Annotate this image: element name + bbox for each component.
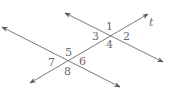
transversal-t	[30, 14, 148, 83]
angle-label-3: 3	[92, 30, 99, 43]
diagram-canvas: 12345678 t	[0, 0, 181, 100]
angle-label-6: 6	[79, 55, 86, 68]
angle-label-7: 7	[48, 56, 55, 69]
angle-label-8: 8	[64, 65, 71, 78]
angle-label-5: 5	[65, 46, 72, 59]
transversal-label: t	[149, 16, 154, 29]
lower-line	[2, 27, 120, 87]
angle-label-4: 4	[106, 38, 113, 51]
angle-label-1: 1	[106, 20, 113, 33]
angle-label-2: 2	[123, 30, 130, 43]
